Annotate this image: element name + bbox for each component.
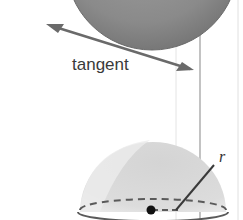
radius-label: r	[219, 148, 225, 166]
sphere	[66, 0, 238, 50]
tangent-label: tangent	[72, 55, 129, 75]
center-point	[147, 206, 156, 215]
diagram-canvas	[0, 0, 243, 220]
diagram: tangent r	[0, 0, 243, 220]
